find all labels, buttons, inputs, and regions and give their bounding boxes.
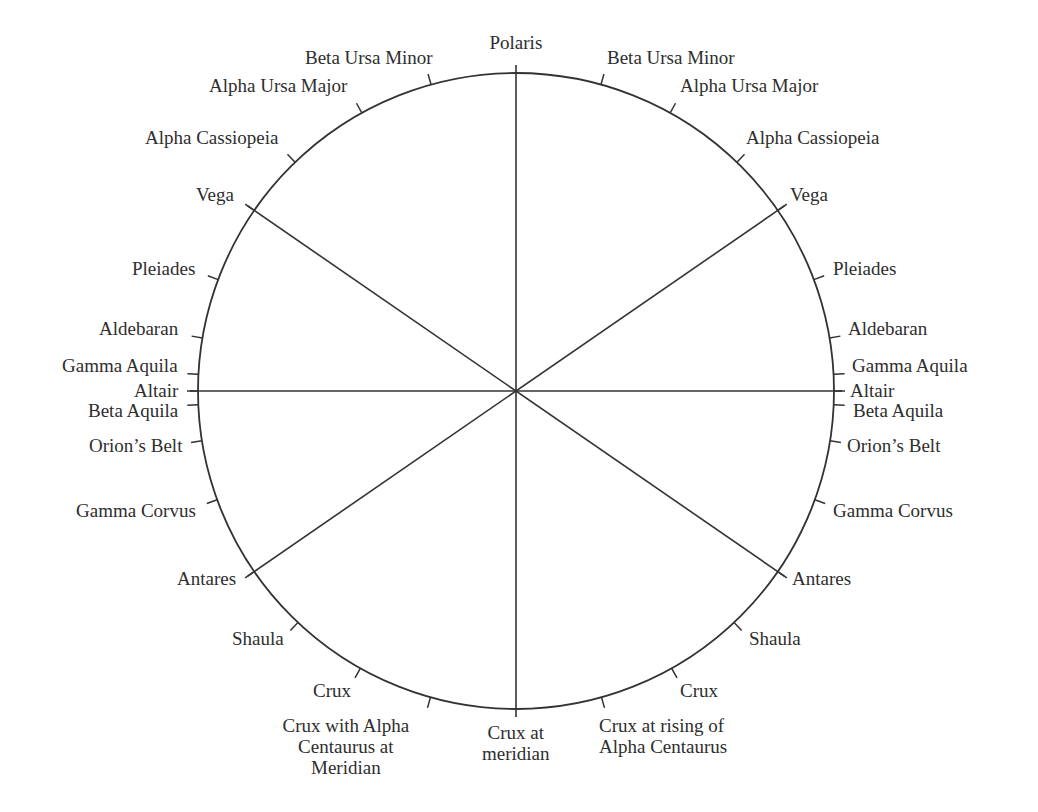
label-right-gamma-aquila: Gamma Aquila <box>852 355 968 376</box>
tick-mark <box>207 500 217 504</box>
label-left-beta-aquila: Beta Aquila <box>88 400 178 421</box>
label-left-gamma-corvus: Gamma Corvus <box>76 500 196 521</box>
tick-mark <box>778 204 787 210</box>
tick-mark <box>287 154 295 162</box>
label-left-altair: Altair <box>134 380 178 401</box>
tick-mark <box>834 374 845 375</box>
tick-mark <box>208 276 218 280</box>
label-left-alpha-cassiopeia: Alpha Cassiopeia <box>145 127 279 148</box>
tick-mark <box>191 441 202 443</box>
label-bottom-crux-at-meridian: Crux at meridian <box>482 722 550 764</box>
tick-mark <box>290 622 298 630</box>
label-right-shaula: Shaula <box>749 628 801 649</box>
label-top-polaris: Polaris <box>490 32 543 53</box>
tick-mark <box>356 103 361 113</box>
tick-mark <box>602 697 605 708</box>
tick-mark <box>778 572 787 578</box>
tick-mark <box>428 697 431 708</box>
tick-mark <box>601 74 604 85</box>
tick-mark <box>737 154 745 162</box>
tick-mark <box>830 336 841 338</box>
label-left-aldebaran: Aldebaran <box>99 318 178 339</box>
label-right-beta-ursa-minor: Beta Ursa Minor <box>607 47 735 68</box>
tick-mark <box>830 441 841 443</box>
tick-mark <box>355 668 360 678</box>
compass-axes <box>190 65 842 717</box>
label-right-crux-at-rising-of-alpha-centaurus: Crux at rising of Alpha Centaurus <box>599 715 727 757</box>
label-left-vega: Vega <box>196 184 234 205</box>
label-left-antares: Antares <box>177 568 236 589</box>
label-right-alpha-ursa-major: Alpha Ursa Major <box>680 75 818 96</box>
label-right-beta-aquila: Beta Aquila <box>853 400 943 421</box>
tick-mark <box>670 103 675 113</box>
label-right-crux: Crux <box>680 680 718 701</box>
label-right-gamma-corvus: Gamma Corvus <box>833 500 953 521</box>
tick-mark <box>815 500 825 504</box>
label-left-pleiades: Pleiades <box>132 258 195 279</box>
label-left-gamma-aquila: Gamma Aquila <box>62 355 178 376</box>
tick-mark <box>187 374 198 375</box>
tick-mark <box>245 572 254 578</box>
label-right-vega: Vega <box>790 184 828 205</box>
label-right-alpha-cassiopeia: Alpha Cassiopeia <box>746 127 880 148</box>
label-left-crux-with-alpha-centaurus-at-meridian: Crux with Alpha Centaurus at Meridian <box>283 715 410 778</box>
label-left-alpha-ursa-major: Alpha Ursa Major <box>209 75 347 96</box>
tick-mark <box>428 74 431 85</box>
tick-mark <box>192 336 203 338</box>
label-right-antares: Antares <box>792 568 851 589</box>
label-left-orion-s-belt: Orion’s Belt <box>89 435 182 456</box>
label-right-pleiades: Pleiades <box>833 258 896 279</box>
tick-mark <box>245 204 254 210</box>
label-right-aldebaran: Aldebaran <box>848 318 927 339</box>
tick-mark <box>814 276 824 280</box>
label-right-altair: Altair <box>850 380 894 401</box>
tick-mark <box>734 622 742 630</box>
tick-mark <box>672 668 677 678</box>
label-left-crux: Crux <box>313 680 351 701</box>
label-left-shaula: Shaula <box>232 628 284 649</box>
label-left-beta-ursa-minor: Beta Ursa Minor <box>305 47 433 68</box>
label-right-orion-s-belt: Orion’s Belt <box>847 435 940 456</box>
